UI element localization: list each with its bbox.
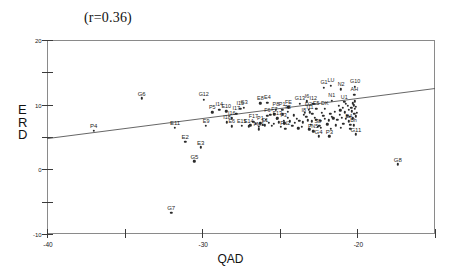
y-axis-title: E R D: [18, 104, 27, 142]
plot-area: -40-30-20-1001020 -40-30-20-10010 P4G6E1…: [47, 40, 435, 234]
data-point-label: LU: [328, 79, 335, 84]
data-point-label: G5: [190, 154, 198, 160]
regression-line: [47, 40, 435, 234]
data-point-label: E8: [257, 96, 264, 101]
x-tick: 10: [435, 229, 436, 238]
x-tick-label: -20: [354, 241, 363, 248]
data-point-label: P3: [326, 129, 333, 135]
x-tick-label: -40: [43, 241, 52, 248]
x-tick-label: -30: [198, 241, 207, 248]
y-tick-label: 10: [35, 103, 42, 109]
data-point-label: I17: [233, 107, 241, 112]
data-point-label: G1: [320, 81, 327, 86]
y-tick-label: -10: [33, 232, 42, 238]
data-point-label: DK: [321, 101, 329, 106]
y-tick-label: 0: [38, 167, 41, 173]
data-point-label: FN2: [280, 121, 290, 126]
data-point-label: N2: [338, 82, 345, 87]
data-point-label: E3: [197, 140, 204, 146]
data-point-label: I8: [302, 108, 307, 113]
data-point-label: AH: [351, 88, 359, 93]
data-point-label: U1: [341, 95, 348, 100]
data-point-label: E2: [181, 134, 188, 140]
data-point-label: G12: [199, 93, 209, 98]
data-point-label: I15: [236, 102, 244, 107]
chart-root: (r=0.36) E R D QAD -40-30-20-1001020 -40…: [0, 0, 461, 271]
data-point-label: G6: [138, 91, 146, 97]
data-point-label: G7: [167, 205, 175, 211]
data-point-label: E11: [170, 120, 180, 126]
y-axis-title-char-d: D: [18, 129, 27, 142]
chart-title: (r=0.36): [84, 10, 132, 26]
x-axis-title: QAD: [0, 252, 461, 266]
data-point-label: G10: [350, 79, 360, 84]
data-point-label: E5: [313, 102, 320, 107]
data-point-label: P4: [90, 123, 97, 129]
data-point-label: E1: [262, 118, 269, 123]
data-point-label: G8: [394, 157, 402, 163]
data-point-label: G13: [295, 96, 305, 101]
data-point-label: G11: [350, 127, 361, 133]
data-point-label: E4: [264, 96, 271, 101]
data-point-label: F3: [281, 114, 287, 119]
data-point-label: E10: [221, 104, 231, 109]
data-point-label: G4: [315, 129, 323, 135]
data-point-label: E9: [203, 119, 210, 124]
data-point-label: T8: [284, 105, 290, 110]
data-point-label: Bh: [350, 118, 357, 123]
data-point-label: F6: [264, 109, 270, 114]
y-tick-label: 20: [35, 38, 42, 44]
data-point-label: E6: [228, 119, 235, 124]
data-point-label: N1: [328, 94, 335, 99]
